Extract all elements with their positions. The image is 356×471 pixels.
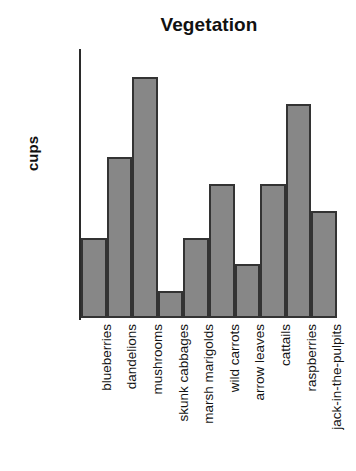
bar: [235, 264, 261, 318]
bar: [107, 157, 133, 318]
x-axis-label-slot: blueberries: [81, 324, 107, 470]
x-axis-label-slot: marsh marigolds: [183, 324, 209, 470]
chart-title: Vegetation: [81, 14, 337, 36]
x-axis-label-slot: mushrooms: [132, 324, 158, 470]
x-axis-label-slot: skunk cabbages: [158, 324, 184, 470]
x-axis-label-slot: arrow leaves: [235, 324, 261, 470]
bar: [183, 238, 209, 318]
bar: [311, 211, 337, 318]
x-axis-label-slot: dandelions: [107, 324, 133, 470]
x-axis-label-slot: raspberries: [286, 324, 312, 470]
bar: [158, 291, 184, 318]
bar: [260, 184, 286, 318]
x-axis-label-slot: wild carrots: [209, 324, 235, 470]
x-axis-label-slot: jack-in-the-pulpits: [311, 324, 337, 470]
y-axis-title: cups: [24, 124, 41, 184]
bar: [132, 77, 158, 318]
x-axis-label-slot: cattails: [260, 324, 286, 470]
x-tick-label: jack-in-the-pulpits: [330, 324, 344, 430]
plot-area: 05101520253035404550: [81, 50, 337, 318]
bar: [81, 238, 107, 318]
bar: [209, 184, 235, 318]
bar: [286, 104, 312, 318]
bar-chart: Vegetation cups 05101520253035404550 blu…: [0, 0, 356, 471]
